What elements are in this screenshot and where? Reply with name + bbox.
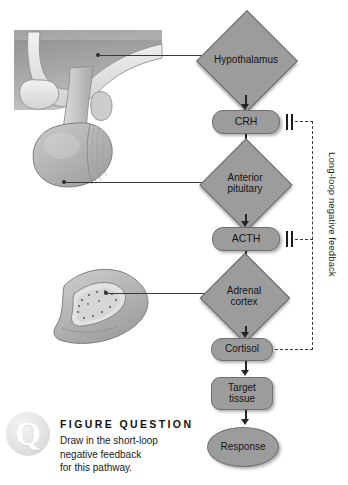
node-line-2: pituitary: [227, 183, 262, 194]
figure-question-body-line-2: negative feedback: [60, 449, 141, 460]
brain-hypothalamus-art: [14, 24, 174, 189]
inhibition-mark-acth: [286, 231, 294, 247]
node-crh[interactable]: CRH: [212, 110, 280, 134]
inhibition-mark-crh: [286, 114, 294, 130]
figure-question-letter: Q: [15, 418, 41, 451]
node-adrenal-cortex-label: Adrenal cortex: [227, 286, 261, 308]
node-acth-label: ACTH: [232, 233, 261, 244]
node-line-1: Target: [228, 382, 256, 393]
leader-line-hypothalamus: [98, 55, 208, 56]
node-cortisol[interactable]: Cortisol: [211, 338, 273, 361]
node-cortisol-label: Cortisol: [225, 344, 259, 355]
figure-question-body-line-3: for this pathway.: [60, 462, 132, 473]
node-line-2: cortex: [230, 296, 257, 307]
arrowhead-target-tissue: [241, 370, 249, 376]
figure-root: Hypothalamus CRH Anterior pituitary ACTH: [0, 0, 348, 485]
adrenal-gland-art: [52, 266, 164, 352]
figure-question-body-line-1: Draw in the short-loop: [60, 435, 158, 446]
feedback-line-to-crh: [295, 121, 313, 122]
node-response-label: Response: [220, 442, 265, 453]
node-line-1: Anterior: [227, 172, 262, 183]
figure-question-heading: FIGURE QUESTION: [60, 418, 193, 430]
node-anterior-pituitary-label: Anterior pituitary: [227, 173, 262, 195]
node-adrenal-cortex[interactable]: Adrenal cortex: [213, 266, 275, 328]
node-anterior-pituitary[interactable]: Anterior pituitary: [213, 152, 277, 216]
node-target-tissue-label: Target tissue: [228, 383, 256, 405]
leader-line-pituitary: [64, 182, 208, 183]
node-response[interactable]: Response: [207, 427, 279, 467]
node-line-1: Adrenal: [227, 285, 261, 296]
figure-question-body: Draw in the short-loop negative feedback…: [60, 434, 210, 475]
node-target-tissue[interactable]: Target tissue: [211, 377, 273, 410]
feedback-line-vertical: [312, 121, 313, 350]
feedback-line-to-acth: [295, 239, 313, 240]
leader-line-adrenal: [106, 293, 208, 294]
feedback-line-from-cortisol: [275, 349, 313, 350]
figure-question-badge: Q: [6, 412, 50, 456]
node-line-2: tissue: [229, 393, 255, 404]
arrowhead-response: [241, 419, 249, 425]
node-hypothalamus[interactable]: Hypothalamus: [211, 25, 281, 95]
node-crh-label: CRH: [235, 116, 258, 127]
node-hypothalamus-label: Hypothalamus: [214, 55, 278, 66]
feedback-label: Long-loop negative feedback: [327, 152, 338, 277]
node-acth[interactable]: ACTH: [212, 227, 280, 251]
